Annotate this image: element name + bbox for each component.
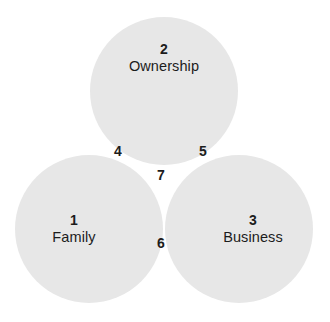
set-number-ownership: 2: [129, 41, 199, 58]
set-name-ownership: Ownership: [129, 58, 199, 75]
set-label-ownership: 2 Ownership: [129, 41, 199, 75]
intersection-label-family-ownership: 4: [114, 143, 122, 160]
set-number-family: 1: [52, 212, 95, 229]
intersection-number-family-business: 6: [157, 235, 165, 252]
set-name-family: Family: [52, 229, 95, 246]
set-label-family: 1 Family: [52, 212, 95, 246]
intersection-label-ownership-business: 5: [199, 143, 207, 160]
set-name-business: Business: [223, 229, 283, 246]
venn-diagram: 2 Ownership 1 Family 3 Business 4 5 6 7: [0, 0, 330, 322]
intersection-number-ownership-business: 5: [199, 143, 207, 160]
intersection-number-family-ownership: 4: [114, 143, 122, 160]
circle-ownership: [90, 17, 238, 165]
set-label-business: 3 Business: [223, 212, 283, 246]
intersection-label-triple: 7: [157, 167, 165, 184]
intersection-label-family-business: 6: [157, 235, 165, 252]
set-number-business: 3: [223, 212, 283, 229]
intersection-number-triple: 7: [157, 167, 165, 184]
